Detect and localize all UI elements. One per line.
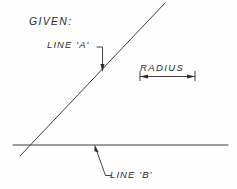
radius-arrowhead-left-icon — [140, 74, 148, 78]
technical-drawing-canvas: GIVEN: LINE 'A' RADIUS LINE 'B' — [0, 0, 237, 189]
drawing-svg — [0, 0, 237, 189]
given-note-label: GIVEN: — [29, 15, 72, 27]
line-a-label: LINE 'A' — [47, 39, 90, 50]
radius-dimension-label: RADIUS — [140, 62, 184, 73]
line-b-leader-arrowhead-icon — [94, 145, 98, 153]
line-b-leader — [96, 149, 111, 176]
radius-arrowhead-right-icon — [187, 74, 195, 78]
line-b-label: LINE 'B' — [110, 169, 153, 180]
